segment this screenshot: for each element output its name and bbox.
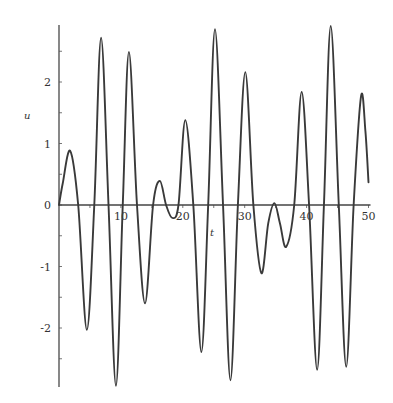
y-tick-label: 2	[44, 76, 51, 89]
x-tick-label: 40	[300, 210, 314, 223]
x-axis-label: t	[210, 227, 215, 238]
y-tick-label: -2	[40, 322, 51, 335]
y-tick-label: 1	[44, 138, 51, 151]
x-axis-ticks: 1020304050	[90, 205, 376, 223]
x-tick-label: 30	[238, 210, 252, 223]
y-axis-label: u	[24, 110, 30, 121]
x-tick-label: 10	[114, 210, 128, 223]
y-tick-label: -1	[40, 261, 51, 274]
x-tick-label: 50	[362, 210, 376, 223]
line-chart: -2-1012 1020304050 t u	[0, 0, 393, 403]
y-tick-label: 0	[44, 199, 51, 212]
